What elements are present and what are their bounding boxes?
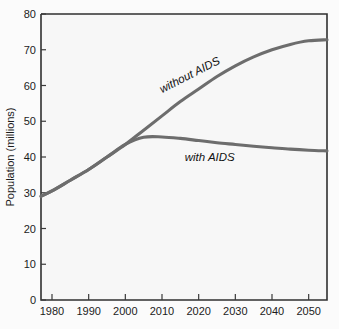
y-tick-label: 10 (24, 258, 36, 270)
y-axis-tick-labels: 01020304050607080 (24, 8, 36, 306)
y-axis-title: Population (millions) (4, 107, 16, 206)
x-tick-label: 2040 (260, 305, 284, 317)
y-tick-label: 70 (24, 44, 36, 56)
y-tick-label: 20 (24, 223, 36, 235)
y-tick-label: 0 (30, 294, 36, 306)
population-projection-chart: 01020304050607080 1980199020002010202020… (0, 0, 339, 329)
x-tick-label: 2030 (223, 305, 247, 317)
x-tick-label: 2020 (186, 305, 210, 317)
y-tick-label: 60 (24, 80, 36, 92)
y-tick-label: 80 (24, 8, 36, 20)
x-axis-tick-labels: 19801990200020102020203020402050 (40, 305, 321, 317)
x-tick-label: 2000 (113, 305, 137, 317)
y-tick-label: 40 (24, 151, 36, 163)
x-tick-label: 2010 (150, 305, 174, 317)
series-label-with-aids: with AIDS (185, 151, 235, 163)
chart-figure: 01020304050607080 1980199020002010202020… (0, 0, 339, 329)
x-tick-label: 1990 (76, 305, 100, 317)
y-tick-label: 50 (24, 115, 36, 127)
y-tick-label: 30 (24, 187, 36, 199)
x-tick-label: 1980 (40, 305, 64, 317)
x-tick-label: 2050 (296, 305, 320, 317)
